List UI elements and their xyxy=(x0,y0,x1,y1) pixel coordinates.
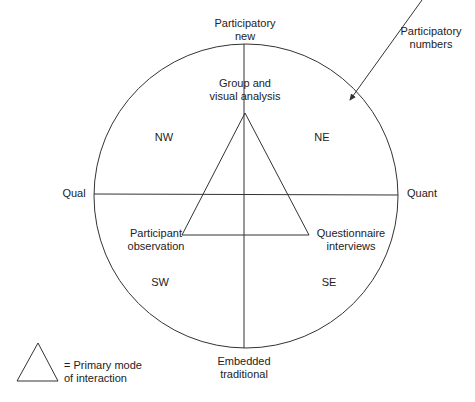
vertex-br-line2: interviews xyxy=(309,240,393,253)
vertex-bl-line1: Participant xyxy=(120,227,192,240)
quadrant-sw: SW xyxy=(148,276,172,289)
annotation-line1: Participatory xyxy=(391,25,471,38)
axis-top-line2: new xyxy=(205,30,285,43)
annotation-label: Participatory numbers xyxy=(391,25,471,51)
axis-top-label: Participatory new xyxy=(205,17,285,43)
quadrant-se: SE xyxy=(317,276,341,289)
vertex-top-line1: Group and xyxy=(193,77,297,90)
legend-line1: = Primary mode xyxy=(64,359,174,372)
quadrant-nw: NW xyxy=(152,131,176,144)
vertex-br-line1: Questionnaire xyxy=(309,227,393,240)
axis-right-label: Quant xyxy=(402,187,442,200)
quadrant-ne: NE xyxy=(310,131,334,144)
horizontal-axis xyxy=(94,194,398,195)
primary-mode-triangle xyxy=(182,113,309,235)
vertex-top-line2: visual analysis xyxy=(193,90,297,103)
diagram-canvas xyxy=(0,0,475,402)
vertex-bl-line2: observation xyxy=(120,240,192,253)
axis-left-label: Qual xyxy=(59,187,89,200)
legend-label: = Primary mode of interaction xyxy=(64,359,174,385)
vertex-top-label: Group and visual analysis xyxy=(193,77,297,103)
vertex-bottom-left-label: Participant observation xyxy=(120,227,192,253)
axis-top-line1: Participatory xyxy=(205,17,285,30)
axis-bottom-line2: traditional xyxy=(204,368,284,381)
axis-bottom-label: Embedded traditional xyxy=(204,355,284,381)
legend-triangle-icon xyxy=(17,343,58,381)
axis-bottom-line1: Embedded xyxy=(204,355,284,368)
annotation-line2: numbers xyxy=(391,38,471,51)
vertex-bottom-right-label: Questionnaire interviews xyxy=(309,227,393,253)
legend-line2: of interaction xyxy=(64,372,174,385)
